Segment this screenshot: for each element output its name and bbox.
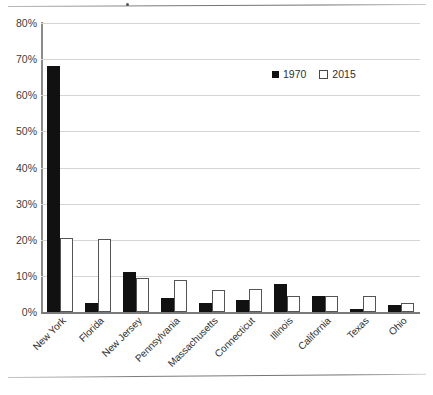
bar-2015: [98, 239, 111, 312]
y-tick-label: 30%: [16, 198, 37, 210]
plot-area: [41, 23, 420, 312]
y-tick-label: 60%: [16, 89, 37, 101]
x-tick-cell: Ohio: [382, 313, 420, 375]
bar-2015: [136, 278, 149, 312]
bar-1970: [199, 303, 212, 312]
bar-groups: [41, 23, 420, 312]
x-tick-label: New York: [31, 315, 68, 352]
x-tick-cell: New York: [41, 313, 79, 375]
x-tick-label: Illinois: [268, 315, 295, 342]
x-tick-cell: Texas: [344, 313, 382, 375]
y-tick-label: 20%: [16, 234, 37, 246]
x-tick-cell: California: [306, 313, 344, 375]
x-tick-label: Ohio: [386, 315, 408, 337]
bar-1970: [388, 305, 401, 312]
bar-group: [193, 23, 231, 312]
y-tick-label: 0%: [22, 306, 37, 318]
bar-group: [344, 23, 382, 312]
bar-group: [117, 23, 155, 312]
y-tick-label: 70%: [16, 53, 37, 65]
bar-2015: [174, 280, 187, 312]
y-tick-label: 10%: [16, 270, 37, 282]
top-rule: [8, 4, 426, 7]
legend-label-1970: 1970: [283, 68, 306, 80]
bar-1970: [236, 300, 249, 312]
bar-1970: [161, 298, 174, 312]
y-tick-label: 50%: [16, 125, 37, 137]
bar-1970: [350, 309, 363, 312]
bar-group: [268, 23, 306, 312]
bar-2015: [60, 238, 73, 312]
legend-swatch-filled-square-icon: [272, 71, 279, 78]
bar-2015: [363, 296, 376, 312]
bar-group: [382, 23, 420, 312]
bar-group: [231, 23, 269, 312]
bar-2015: [249, 289, 262, 312]
bar-1970: [123, 272, 136, 312]
bar-group: [41, 23, 79, 312]
bar-2015: [212, 290, 225, 312]
bar-group: [155, 23, 193, 312]
bar-2015: [401, 303, 414, 312]
chart-legend: 1970 2015: [272, 68, 356, 80]
x-tick-label: Texas: [345, 315, 371, 341]
scan-speck: [126, 3, 129, 6]
y-tick-label: 80%: [16, 17, 37, 29]
bar-1970: [85, 303, 98, 312]
x-tick-label: Florida: [77, 315, 106, 344]
x-axis-tick-labels: New YorkFloridaNew JerseyPennsylvaniaMas…: [41, 313, 420, 375]
legend-entry-2015: 2015: [319, 68, 355, 80]
chart-figure: 80%70%60%50%40%30%20%10%0% 1970 2015 New…: [0, 0, 433, 395]
legend-label-2015: 2015: [332, 68, 355, 80]
bar-2015: [325, 296, 338, 312]
bar-1970: [274, 284, 287, 312]
bar-2015: [287, 296, 300, 312]
y-axis-tick-labels: 80%70%60%50%40%30%20%10%0%: [0, 23, 37, 312]
y-tick-label: 40%: [16, 162, 37, 174]
legend-entry-1970: 1970: [272, 68, 306, 80]
bar-1970: [312, 296, 325, 312]
bar-group: [306, 23, 344, 312]
legend-swatch-hollow-square-icon: [319, 70, 328, 79]
x-tick-cell: Connecticut: [231, 313, 269, 375]
bar-group: [79, 23, 117, 312]
bar-1970: [47, 66, 60, 312]
